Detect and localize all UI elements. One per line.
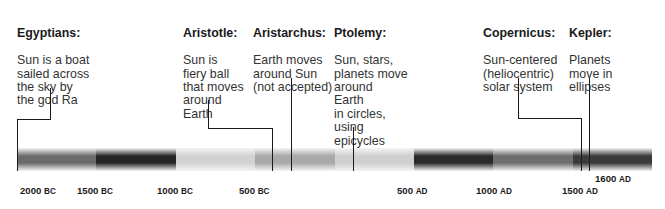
connector-aristotle	[272, 128, 273, 171]
event-title: Aristotle:	[183, 27, 244, 40]
tick-era: BC	[44, 187, 56, 196]
connector-copernicus	[581, 118, 582, 171]
event-title: Ptolemy:	[334, 27, 408, 40]
tick-year: 2000	[20, 185, 41, 196]
tick-year: 1500	[77, 185, 98, 196]
event-description: Sun is a boat sailed across the sky by t…	[17, 54, 89, 108]
tick-year: 1500	[562, 185, 583, 196]
tick-year: 1600	[595, 173, 616, 184]
tick-era: BC	[181, 187, 193, 196]
event-description: Sun, stars, planets move around Earth in…	[334, 54, 408, 148]
connector-kepler	[589, 78, 590, 171]
connector-egyptians	[50, 88, 51, 120]
event-aristotle: Aristotle: Sun is fiery ball that moves …	[183, 14, 244, 135]
tick-label-500ad: 500 AD	[397, 185, 428, 196]
timeline-segment-2000bc	[17, 148, 96, 171]
timeline-segment-1000ad	[493, 148, 572, 171]
event-title: Aristarchus:	[253, 27, 332, 40]
event-egyptians: Egyptians: Sun is a boat sailed across t…	[17, 14, 89, 121]
connector-aristotle	[208, 100, 209, 129]
tick-label-1000bc: 1000 BC	[157, 185, 193, 196]
tick-year: 500	[239, 185, 255, 196]
event-title: Egyptians:	[17, 27, 89, 40]
timeline-segment-500ad	[414, 148, 493, 171]
event-description: Sun is fiery ball that moves around Eart…	[183, 54, 244, 121]
event-ptolemy: Ptolemy: Sun, stars, planets move around…	[334, 14, 408, 161]
tick-era: BC	[101, 187, 113, 196]
tick-era: AD	[500, 187, 512, 196]
connector-ptolemy	[353, 127, 354, 171]
timeline-segment-1000bc	[176, 148, 255, 171]
event-description: Planets move in ellipses	[569, 54, 612, 94]
event-kepler: Kepler: Planets move in ellipses	[569, 14, 612, 108]
connector-egyptians	[17, 119, 51, 120]
tick-label-2000bc: 2000 BC	[20, 185, 56, 196]
tick-label-1500bc: 1500 BC	[77, 185, 113, 196]
connector-aristarchus	[291, 78, 292, 171]
timeline-segment-1500ad	[573, 148, 652, 171]
tick-label-1000ad: 1000 AD	[476, 185, 512, 196]
event-description: Sun-centered (heliocentric) solar system	[483, 54, 557, 94]
event-copernicus: Copernicus: Sun-centered (heliocentric) …	[483, 14, 557, 108]
tick-label-500bc: 500 BC	[239, 185, 270, 196]
tick-label-1500ad: 1500 AD	[562, 185, 598, 196]
tick-era: AD	[619, 175, 631, 184]
timeline-segment-1500bc	[96, 148, 175, 171]
tick-era: AD	[416, 187, 428, 196]
timeline-bar	[17, 148, 652, 171]
event-title: Kepler:	[569, 27, 612, 40]
timeline-segment-500bc	[255, 148, 334, 171]
tick-era: AD	[586, 187, 598, 196]
connector-copernicus	[518, 78, 519, 119]
connector-egyptians	[17, 119, 18, 171]
event-aristarchus: Aristarchus: Earth moves around Sun (not…	[253, 14, 332, 108]
tick-year: 1000	[476, 185, 497, 196]
timeline-segment-0	[335, 148, 414, 171]
tick-year: 500	[397, 185, 413, 196]
connector-copernicus	[518, 118, 582, 119]
event-description: Earth moves around Sun (not accepted)	[253, 54, 332, 94]
tick-era: BC	[258, 187, 270, 196]
tick-year: 1000	[157, 185, 178, 196]
connector-aristotle	[208, 128, 273, 129]
event-title: Copernicus:	[483, 27, 557, 40]
tick-label-1600ad: 1600 AD	[595, 173, 631, 184]
